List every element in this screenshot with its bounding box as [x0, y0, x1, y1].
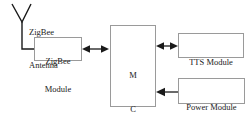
arrowhead-right-icon: [101, 45, 109, 53]
zigbee-module-box[interactable]: [35, 38, 82, 61]
arrowhead-left-icon: [82, 45, 90, 53]
tts-module-box[interactable]: [179, 34, 244, 58]
diagram-vector-layer: [0, 0, 247, 116]
connector-mcu-tts: [156, 42, 178, 50]
power-module-box[interactable]: [179, 79, 245, 104]
arrowhead-right-icon: [170, 42, 178, 50]
connector-power-mcu: [156, 88, 178, 96]
arrowhead-left-icon: [156, 42, 164, 50]
zigbee-antenna-icon: [12, 4, 34, 49]
mcu-box[interactable]: [111, 26, 156, 107]
arrowhead-left-icon: [156, 88, 165, 96]
connector-zigbee-mcu: [82, 45, 109, 53]
block-diagram-canvas: ZigBee Antenna ZigBee Module M C U TTS M…: [0, 0, 247, 116]
